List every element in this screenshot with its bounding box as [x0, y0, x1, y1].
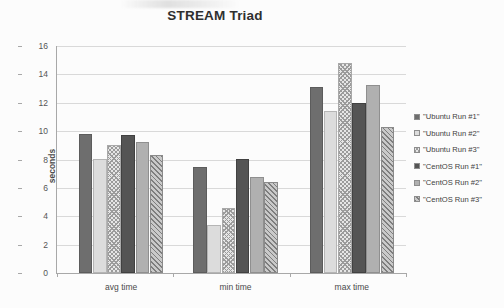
- y-axis-tickmark: [18, 188, 22, 189]
- bar-group: [193, 46, 278, 273]
- bar[interactable]: [150, 155, 164, 273]
- legend-label: "Ubuntu Run #1": [423, 112, 479, 121]
- x-axis-tickmark: [406, 273, 407, 277]
- y-axis-tick-label: 2: [22, 240, 48, 250]
- y-axis-tickmark: [18, 74, 22, 75]
- x-axis-tickmark: [57, 273, 58, 277]
- scan-artifact: [120, 0, 240, 8]
- bar[interactable]: [324, 111, 338, 273]
- legend-label: "Ubuntu Run #3": [423, 145, 479, 154]
- legend-item[interactable]: "Ubuntu Run #1": [414, 112, 504, 121]
- legend-label: "CentOS Run #1": [423, 162, 482, 171]
- bar[interactable]: [338, 63, 352, 273]
- y-axis-tick-label: 10: [22, 126, 48, 136]
- bar[interactable]: [193, 167, 207, 273]
- x-axis-tickmark: [290, 273, 291, 277]
- legend-item[interactable]: "CentOS Run #1": [414, 162, 504, 171]
- legend: "Ubuntu Run #1""Ubuntu Run #2""Ubuntu Ru…: [414, 112, 504, 211]
- y-axis-tickmark: [18, 160, 22, 161]
- bar-group: [79, 46, 164, 273]
- bar[interactable]: [107, 145, 121, 273]
- legend-swatch-icon: [414, 114, 420, 120]
- bar[interactable]: [222, 208, 236, 273]
- legend-swatch-icon: [414, 196, 420, 202]
- y-axis-tick-label: 14: [22, 69, 48, 79]
- y-axis-title: seconds: [47, 149, 57, 184]
- y-axis-tickmark: [18, 46, 22, 47]
- y-axis-tick-label: 12: [22, 98, 48, 108]
- bar[interactable]: [310, 87, 324, 273]
- bar[interactable]: [264, 182, 278, 274]
- legend-swatch-icon: [414, 130, 420, 136]
- bar[interactable]: [121, 135, 135, 273]
- legend-item[interactable]: "CentOS Run #3": [414, 195, 504, 204]
- bar[interactable]: [381, 127, 395, 273]
- bar[interactable]: [79, 134, 93, 273]
- y-axis-tick-label: 0: [22, 268, 48, 278]
- legend-swatch-icon: [414, 147, 420, 153]
- legend-label: "CentOS Run #3": [423, 195, 482, 204]
- bar[interactable]: [352, 103, 366, 273]
- legend-item[interactable]: "Ubuntu Run #3": [414, 145, 504, 154]
- legend-label: "Ubuntu Run #2": [423, 129, 479, 138]
- y-axis-tickmark: [18, 131, 22, 132]
- legend-item[interactable]: "CentOS Run #2": [414, 178, 504, 187]
- y-axis-tick-label: 16: [22, 41, 48, 51]
- plot-area: seconds avg timemin timemax time: [56, 46, 406, 274]
- legend-label: "CentOS Run #2": [423, 178, 482, 187]
- y-axis-tickmark: [18, 245, 22, 246]
- bar[interactable]: [250, 177, 264, 273]
- bar[interactable]: [136, 142, 150, 273]
- y-axis-tickmark: [18, 273, 22, 274]
- bar-group: [310, 46, 395, 273]
- bar[interactable]: [93, 159, 107, 273]
- y-axis-tick-labels: 1614121086420: [22, 46, 48, 273]
- bar[interactable]: [207, 225, 221, 273]
- y-axis-tickmark: [18, 216, 22, 217]
- x-axis-category-label: avg time: [61, 282, 181, 292]
- x-axis-category-label: min time: [176, 282, 296, 292]
- x-axis-category-label: max time: [292, 282, 412, 292]
- legend-item[interactable]: "Ubuntu Run #2": [414, 129, 504, 138]
- bar[interactable]: [236, 159, 250, 273]
- legend-swatch-icon: [414, 180, 420, 186]
- y-axis-tick-label: 6: [22, 183, 48, 193]
- x-axis-tickmark: [173, 273, 174, 277]
- y-axis-tickmark: [18, 103, 22, 104]
- legend-swatch-icon: [414, 163, 420, 169]
- y-axis-tick-label: 4: [22, 211, 48, 221]
- chart-title: STREAM Triad: [0, 8, 430, 23]
- y-axis-tick-label: 8: [22, 155, 48, 165]
- bar[interactable]: [366, 85, 380, 273]
- chart-page: STREAM Triad 1614121086420 seconds avg t…: [0, 0, 504, 308]
- bar-series-container: [57, 46, 406, 273]
